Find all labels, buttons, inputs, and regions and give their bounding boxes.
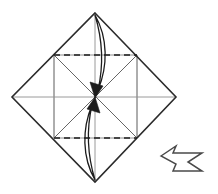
top-fold-arrow-body — [95, 15, 105, 90]
bottom-fold-arrow-body — [85, 105, 95, 180]
origami-diagram: Origami fold step: blintz fold of square… — [0, 0, 218, 194]
top-flap-fold-arrow — [90, 15, 105, 98]
next-step-arrow-icon — [161, 146, 202, 171]
top-fold-arrowhead — [90, 82, 103, 98]
fold-diagram-canvas — [0, 0, 218, 194]
